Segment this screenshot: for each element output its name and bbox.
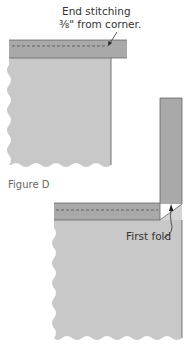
figure-caption: Figure D xyxy=(8,179,49,190)
bottom-callout-text: First fold xyxy=(126,230,171,243)
top-callout-text: End stitching ⅜" from corner. xyxy=(62,5,141,31)
diagram-canvas xyxy=(0,0,192,350)
bottom-binding-strip xyxy=(54,203,160,220)
top-quilt-square xyxy=(7,58,111,167)
top-callout-line1: End stitching xyxy=(62,5,141,18)
folded-binding-strip xyxy=(160,98,182,220)
top-callout-line2: ⅜" from corner. xyxy=(59,18,141,31)
